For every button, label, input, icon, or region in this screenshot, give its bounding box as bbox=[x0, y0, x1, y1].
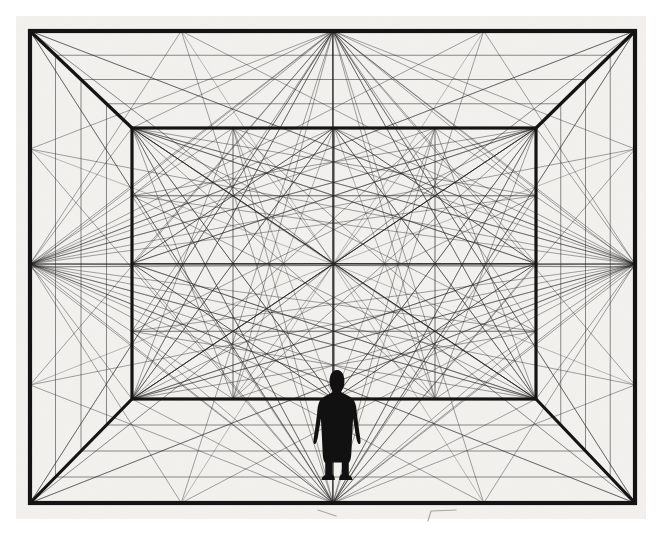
drawing-canvas: One-point perspective room with human fi… bbox=[0, 0, 662, 535]
perspective-diagram bbox=[0, 0, 662, 535]
